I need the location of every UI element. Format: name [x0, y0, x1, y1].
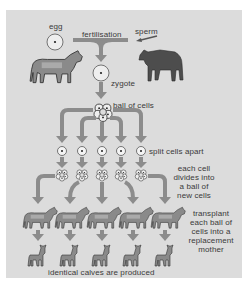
ball-of-cells-label: ball of cells	[113, 101, 154, 110]
fertilisation-label: fertilisation	[82, 30, 122, 39]
cow-parent-icon	[30, 51, 82, 83]
egg-cell	[47, 34, 63, 50]
zygote-to-ball-arrow	[95, 82, 107, 99]
divide-label: each cell divides into a ball of new cel…	[170, 164, 218, 200]
divide-arrows	[56, 157, 147, 168]
split-cells-label: split cells apart	[149, 147, 204, 156]
ball-of-cells	[94, 104, 112, 121]
bull-parent-icon	[139, 50, 183, 81]
result-label: identical calves are produced	[48, 268, 155, 277]
egg-label: egg	[49, 22, 63, 31]
transplant-arrowheads	[32, 197, 171, 204]
split-arrowheads	[56, 136, 147, 143]
split-cells	[58, 147, 146, 156]
identical-calves	[28, 245, 173, 266]
surrogate-mothers	[23, 207, 185, 228]
birth-arrows	[32, 230, 171, 241]
zygote-label: zygote	[111, 79, 135, 88]
new-balls-of-cells	[56, 170, 147, 181]
transplant-label: transplant each ball of cells into a rep…	[186, 209, 236, 254]
sperm-arrow	[136, 36, 157, 42]
sperm-label: sperm	[135, 27, 158, 36]
zygote-cell	[93, 65, 109, 81]
